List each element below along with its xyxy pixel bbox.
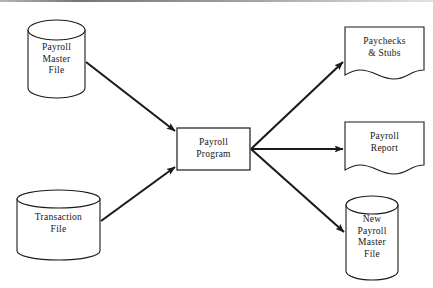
node-payroll-master-file-shape <box>28 20 85 98</box>
node-new-payroll-master-file-shape <box>346 196 398 280</box>
connector-transaction-file-to-program <box>101 167 175 221</box>
diagram-graphics <box>0 0 433 288</box>
node-payroll-report-shape <box>345 122 424 174</box>
node-paychecks-stubs-shape <box>345 27 424 79</box>
node-transaction-file-shape <box>17 190 100 260</box>
connector-master-file-to-program <box>86 62 175 131</box>
diagram-canvas: Payroll Master File Transaction File Pay… <box>0 0 433 288</box>
connector-program-to-paychecks <box>251 62 343 149</box>
node-payroll-program-shape <box>177 128 250 170</box>
connector-program-to-new-master <box>251 149 344 232</box>
